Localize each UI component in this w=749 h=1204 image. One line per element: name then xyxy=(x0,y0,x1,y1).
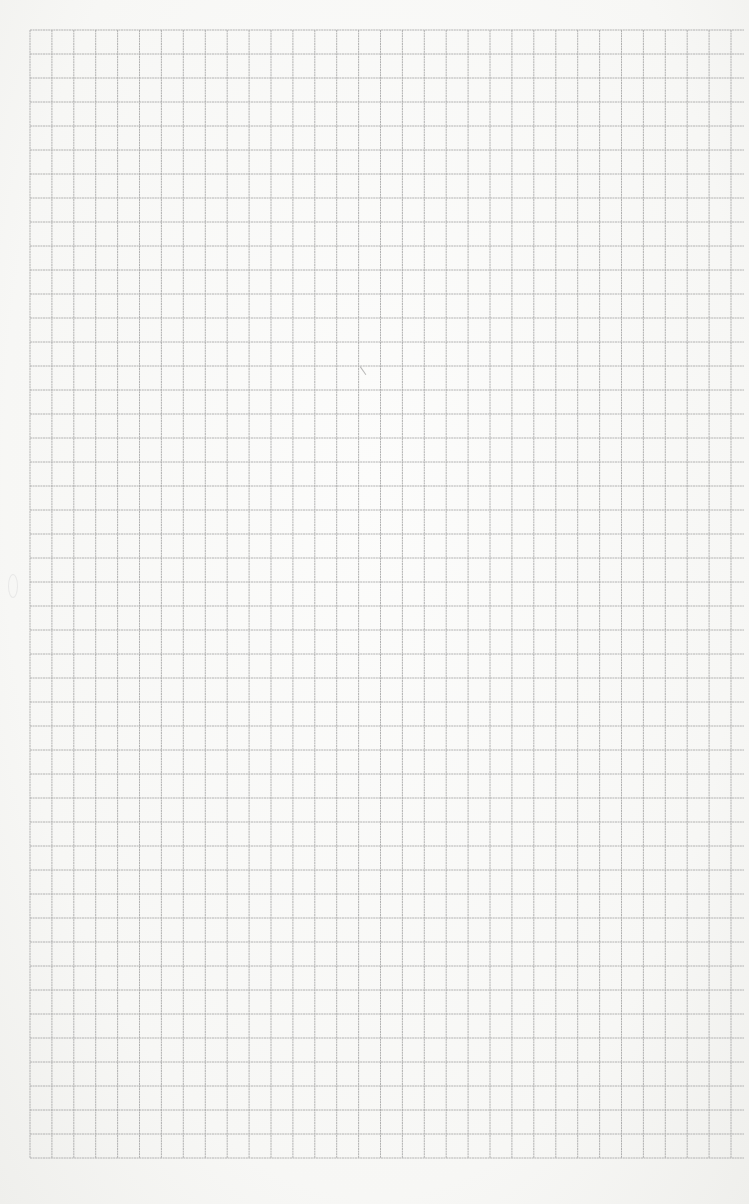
edge-smudge xyxy=(8,574,18,598)
grid-lines xyxy=(0,0,749,1204)
grid xyxy=(0,0,749,1204)
